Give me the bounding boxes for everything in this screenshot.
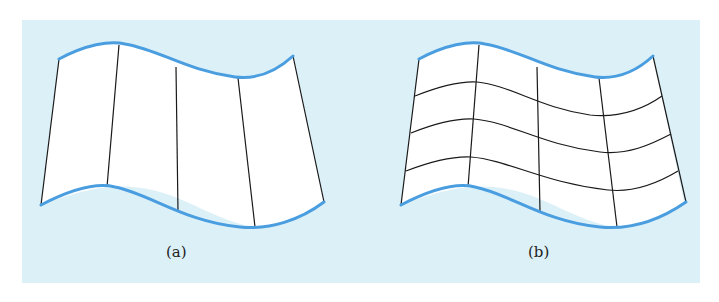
panel-b-surface	[401, 43, 686, 228]
surface-diagram	[0, 0, 719, 302]
panel-b-label: (b)	[528, 243, 549, 261]
panel-a-label: (a)	[166, 243, 187, 261]
panel-a-surface	[41, 43, 324, 228]
